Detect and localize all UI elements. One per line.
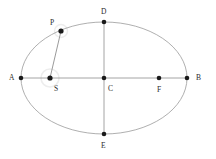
point-label-b: B	[196, 74, 201, 82]
point-label-f: F	[157, 86, 161, 94]
point-label-d: D	[101, 8, 106, 16]
point-marker-c[interactable]	[102, 76, 107, 81]
point-marker-p[interactable]	[58, 28, 63, 33]
ellipse-diagram: A S C F B D E P	[0, 0, 216, 159]
point-label-s: S	[54, 85, 58, 93]
point-marker-b[interactable]	[185, 76, 190, 81]
point-marker-e[interactable]	[102, 132, 107, 137]
point-marker-s[interactable]	[47, 75, 52, 80]
point-label-p: P	[50, 19, 54, 27]
point-label-e: E	[101, 142, 106, 150]
point-label-c: C	[108, 85, 113, 93]
point-label-a: A	[9, 74, 14, 82]
diagram-canvas	[0, 0, 216, 159]
point-marker-f[interactable]	[157, 76, 162, 81]
point-marker-a[interactable]	[19, 76, 24, 81]
point-marker-d[interactable]	[102, 20, 107, 25]
